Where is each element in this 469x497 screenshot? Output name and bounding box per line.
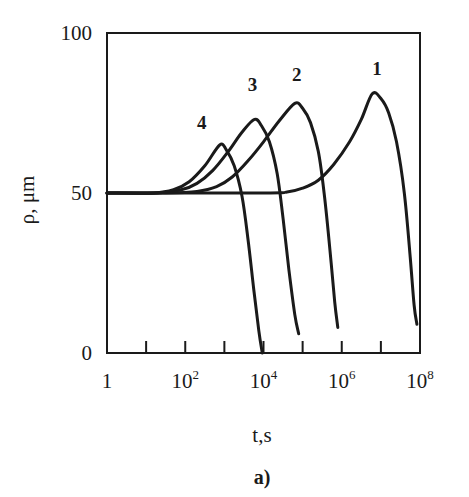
curve-label-1: 1 bbox=[372, 58, 382, 79]
x-axis-title: t,s bbox=[252, 423, 271, 447]
curve-label-3: 3 bbox=[248, 74, 258, 95]
curve-3 bbox=[107, 119, 299, 334]
x-tick-label: 106 bbox=[328, 367, 356, 393]
figure-caption: a) bbox=[254, 466, 271, 489]
y-tick-label: 0 bbox=[82, 341, 93, 365]
curve-label-2: 2 bbox=[292, 64, 302, 85]
x-tick-label: 102 bbox=[172, 367, 200, 393]
y-tick-label: 100 bbox=[61, 21, 93, 45]
x-tick-label: 1 bbox=[102, 369, 113, 393]
curve-labels: 1234 bbox=[197, 58, 382, 133]
chart: 1102104106108 050100 1234 ρ, μm t,s a) bbox=[0, 0, 469, 497]
x-tick-label: 108 bbox=[406, 367, 434, 393]
y-axis-tick-labels: 050100 bbox=[61, 21, 93, 365]
curve-label-4: 4 bbox=[197, 112, 207, 133]
curve-4 bbox=[107, 144, 262, 353]
x-axis-tick-labels: 1102104106108 bbox=[102, 367, 434, 393]
y-tick-label: 50 bbox=[71, 181, 92, 205]
x-tick-label: 104 bbox=[250, 367, 278, 393]
y-axis-title: ρ, μm bbox=[15, 176, 39, 225]
curve-2 bbox=[107, 103, 338, 328]
data-curves bbox=[107, 93, 417, 353]
